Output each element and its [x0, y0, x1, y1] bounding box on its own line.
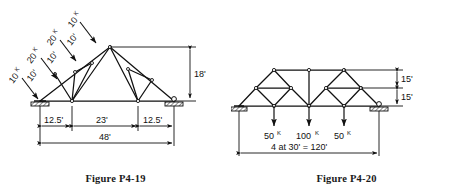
load-unit-3: K: [347, 130, 351, 136]
height-label-lower: 15': [401, 92, 413, 102]
figure-p4-20: 50 K 100 K 50 K 15' 15': [231, 0, 462, 194]
load-unit-2: K: [315, 130, 319, 136]
height-dimension: [110, 47, 196, 101]
dimension-label-mid: 23': [96, 115, 108, 125]
panel-dim-1: 10': [25, 68, 40, 84]
figure-p4-19: 10 K 20 K 20 K 10 K 10': [0, 0, 231, 194]
dimension-label-left: 12.5': [44, 115, 64, 125]
panel-dim-3: 10': [65, 32, 80, 48]
figure-sheet: 10 K 20 K 20 K 10 K 10': [0, 0, 462, 194]
load-arrows: [274, 106, 344, 126]
load-label-1: 10: [7, 71, 21, 85]
panel-dim-2: 10': [45, 50, 60, 66]
load-label-3: 20: [45, 33, 59, 47]
truss-diagram-p4-19: 10 K 20 K 20 K 10 K 10': [0, 0, 231, 194]
load-label-1: 50: [264, 131, 274, 141]
figure-caption-p4-20: Figure P4-20: [231, 173, 462, 184]
dimension-label-right: 12.5': [143, 115, 163, 125]
load-unit-2: K: [31, 46, 38, 53]
load-unit-3: K: [51, 28, 58, 35]
load-labels: 50 K 100 K 50 K: [264, 130, 351, 141]
load-unit-1: K: [13, 66, 20, 73]
load-label-2: 100: [296, 131, 311, 141]
load-unit-4: K: [72, 10, 79, 17]
support-pin-left: [31, 101, 49, 106]
truss-diagram-p4-20: 50 K 100 K 50 K 15' 15': [231, 0, 462, 194]
figure-caption-p4-19: Figure P4-19: [0, 173, 231, 184]
height-label-upper: 15': [401, 74, 413, 84]
support-pin-left: [231, 106, 247, 111]
load-label-3: 50: [334, 131, 344, 141]
span-label: 48': [99, 132, 111, 142]
truss-members: [239, 70, 379, 106]
load-label-2: 20: [25, 51, 39, 65]
load-unit-1: K: [277, 130, 281, 136]
height-label: 18': [194, 69, 206, 79]
truss-members: [40, 47, 174, 101]
load-label-4: 10: [66, 15, 80, 29]
span-label: 4 at 30' = 120': [271, 142, 328, 152]
